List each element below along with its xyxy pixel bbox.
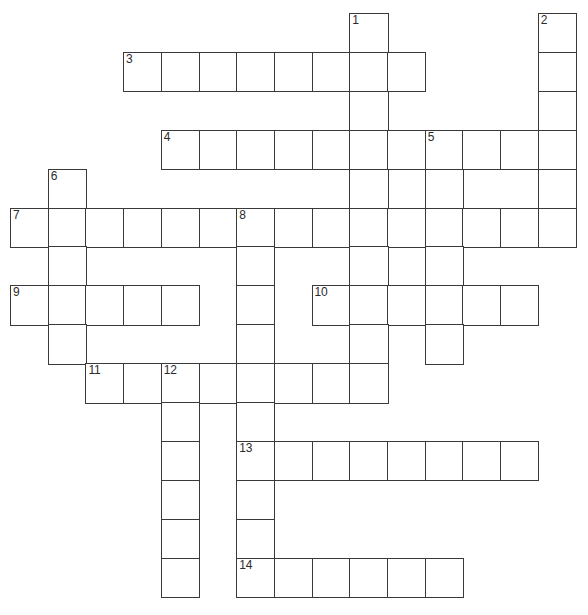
crossword-cell[interactable]: 12: [161, 363, 200, 404]
crossword-cell[interactable]: [274, 363, 313, 404]
crossword-cell[interactable]: [500, 285, 539, 326]
crossword-cell[interactable]: [349, 169, 388, 210]
crossword-cell[interactable]: [349, 558, 388, 599]
crossword-cell[interactable]: [85, 208, 124, 249]
crossword-cell[interactable]: 2: [538, 13, 577, 54]
crossword-cell[interactable]: [236, 246, 275, 287]
crossword-cell[interactable]: 4: [161, 130, 200, 171]
crossword-cell[interactable]: 7: [10, 208, 49, 249]
crossword-cell[interactable]: [312, 52, 351, 93]
crossword-cell[interactable]: [274, 52, 313, 93]
crossword-cell[interactable]: [274, 558, 313, 599]
crossword-cell[interactable]: [387, 558, 426, 599]
crossword-cell[interactable]: [161, 402, 200, 443]
crossword-cell[interactable]: [48, 324, 87, 365]
crossword-cell[interactable]: [274, 208, 313, 249]
cell-number-label: 14: [239, 559, 252, 572]
crossword-cell[interactable]: [236, 363, 275, 404]
crossword-puzzle: 1234567891011121314: [0, 0, 588, 615]
crossword-cell[interactable]: [312, 208, 351, 249]
crossword-cell[interactable]: [161, 519, 200, 560]
crossword-cell[interactable]: [312, 363, 351, 404]
crossword-cell[interactable]: [161, 441, 200, 482]
crossword-cell[interactable]: [161, 480, 200, 521]
crossword-cell[interactable]: [199, 208, 238, 249]
crossword-cell[interactable]: [349, 91, 388, 132]
crossword-cell[interactable]: [425, 285, 464, 326]
crossword-cell[interactable]: [425, 208, 464, 249]
crossword-cell[interactable]: [538, 91, 577, 132]
crossword-cell[interactable]: [48, 246, 87, 287]
crossword-cell[interactable]: [387, 285, 426, 326]
cell-number-label: 10: [315, 286, 328, 299]
crossword-cell[interactable]: 9: [10, 285, 49, 326]
crossword-cell[interactable]: [387, 208, 426, 249]
crossword-cell[interactable]: [236, 519, 275, 560]
cell-number-label: 5: [428, 131, 434, 144]
crossword-cell[interactable]: 10: [312, 285, 351, 326]
crossword-cell[interactable]: [425, 246, 464, 287]
crossword-cell[interactable]: [236, 324, 275, 365]
crossword-cell[interactable]: [199, 52, 238, 93]
crossword-cell[interactable]: [387, 441, 426, 482]
crossword-cell[interactable]: [462, 285, 501, 326]
crossword-cell[interactable]: [312, 441, 351, 482]
crossword-cell[interactable]: 8: [236, 208, 275, 249]
crossword-cell[interactable]: [236, 130, 275, 171]
crossword-cell[interactable]: [349, 246, 388, 287]
crossword-cell[interactable]: [425, 324, 464, 365]
crossword-cell[interactable]: [48, 285, 87, 326]
crossword-cell[interactable]: [538, 208, 577, 249]
cell-number-label: 11: [88, 364, 100, 377]
crossword-cell[interactable]: [349, 208, 388, 249]
crossword-cell[interactable]: [462, 130, 501, 171]
crossword-cell[interactable]: [161, 558, 200, 599]
crossword-cell[interactable]: [349, 441, 388, 482]
crossword-cell[interactable]: 11: [85, 363, 124, 404]
crossword-cell[interactable]: 13: [236, 441, 275, 482]
crossword-cell[interactable]: [538, 130, 577, 171]
crossword-grid[interactable]: 1234567891011121314: [0, 0, 588, 615]
crossword-cell[interactable]: [236, 402, 275, 443]
crossword-cell[interactable]: [274, 130, 313, 171]
crossword-cell[interactable]: [161, 52, 200, 93]
crossword-cell[interactable]: [85, 285, 124, 326]
crossword-cell[interactable]: [387, 52, 426, 93]
crossword-cell[interactable]: [48, 208, 87, 249]
crossword-cell[interactable]: [312, 130, 351, 171]
crossword-cell[interactable]: 3: [123, 52, 162, 93]
crossword-cell[interactable]: 6: [48, 169, 87, 210]
crossword-cell[interactable]: [500, 208, 539, 249]
crossword-cell[interactable]: [199, 130, 238, 171]
crossword-cell[interactable]: [123, 363, 162, 404]
crossword-cell[interactable]: [349, 285, 388, 326]
crossword-cell[interactable]: [425, 169, 464, 210]
crossword-cell[interactable]: [500, 441, 539, 482]
crossword-cell[interactable]: [538, 169, 577, 210]
crossword-cell[interactable]: [312, 558, 351, 599]
crossword-cell[interactable]: [236, 52, 275, 93]
crossword-cell[interactable]: [274, 441, 313, 482]
cell-number-label: 12: [164, 364, 177, 377]
crossword-cell[interactable]: [425, 558, 464, 599]
crossword-cell[interactable]: [462, 441, 501, 482]
crossword-cell[interactable]: [199, 363, 238, 404]
crossword-cell[interactable]: [236, 285, 275, 326]
crossword-cell[interactable]: [462, 208, 501, 249]
crossword-cell[interactable]: [500, 130, 539, 171]
crossword-cell[interactable]: [123, 208, 162, 249]
crossword-cell[interactable]: [161, 208, 200, 249]
crossword-cell[interactable]: [387, 130, 426, 171]
crossword-cell[interactable]: 1: [349, 13, 388, 54]
crossword-cell[interactable]: [236, 480, 275, 521]
crossword-cell[interactable]: [349, 130, 388, 171]
crossword-cell[interactable]: [349, 52, 388, 93]
crossword-cell[interactable]: [161, 285, 200, 326]
crossword-cell[interactable]: [538, 52, 577, 93]
crossword-cell[interactable]: [425, 441, 464, 482]
crossword-cell[interactable]: 5: [425, 130, 464, 171]
crossword-cell[interactable]: 14: [236, 558, 275, 599]
crossword-cell[interactable]: [349, 324, 388, 365]
crossword-cell[interactable]: [123, 285, 162, 326]
crossword-cell[interactable]: [349, 363, 388, 404]
